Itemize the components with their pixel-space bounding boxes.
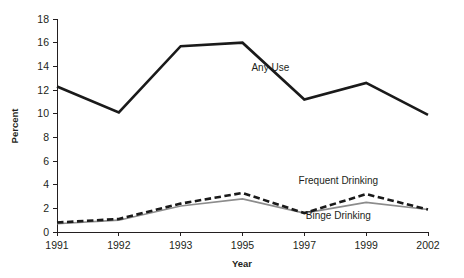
x-tick-label: 2002: [416, 239, 440, 251]
x-axis-title: Year: [232, 258, 252, 269]
x-tick-label: 1997: [293, 239, 317, 251]
y-tick-label: 0: [43, 226, 49, 238]
chart-background: [0, 0, 464, 278]
chart-container: 024681012141618 199119921993199519971999…: [0, 0, 464, 278]
y-tick-label: 2: [43, 202, 49, 214]
series-label-binge-drinking: Binge Drinking: [306, 210, 371, 221]
y-tick-label: 16: [37, 36, 49, 48]
x-tick-label: 1991: [45, 239, 69, 251]
y-tick-label: 12: [37, 84, 49, 96]
x-tick-label: 1993: [169, 239, 193, 251]
y-tick-label: 4: [43, 178, 49, 190]
y-tick-label: 8: [43, 131, 49, 143]
line-chart: 024681012141618 199119921993199519971999…: [0, 0, 464, 278]
y-tick-label: 6: [43, 155, 49, 167]
series-label-any-use: Any Use: [251, 62, 289, 73]
y-tick-label: 18: [37, 13, 49, 25]
y-axis-title: Percent: [9, 108, 20, 144]
series-label-frequent-drinking: Frequent Drinking: [299, 175, 378, 186]
y-tick-label: 14: [37, 60, 49, 72]
x-tick-label: 1999: [354, 239, 378, 251]
y-tick-label: 10: [37, 107, 49, 119]
x-tick-label: 1992: [107, 239, 131, 251]
x-tick-label: 1995: [231, 239, 255, 251]
